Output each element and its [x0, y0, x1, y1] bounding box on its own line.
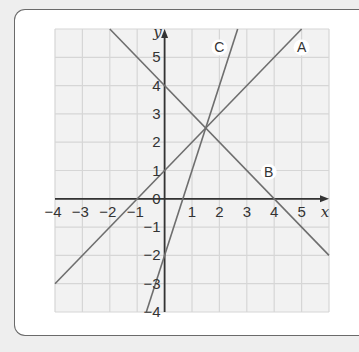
line-label-c: C [214, 39, 224, 55]
x-tick-label: −4 [44, 203, 61, 220]
y-tick-label: 5 [152, 48, 160, 65]
x-tick-label: −3 [72, 203, 89, 220]
x-tick-label: 5 [297, 203, 305, 220]
y-tick-label: 0 [152, 190, 160, 207]
y-tick-label: −1 [143, 218, 160, 235]
x-tick-label: −1 [127, 203, 144, 220]
y-tick-label: 3 [152, 105, 160, 122]
y-tick-label: −4 [143, 303, 160, 320]
line-label-a: A [297, 39, 307, 55]
y-tick-label: −2 [143, 246, 160, 263]
y-tick-label: 1 [152, 162, 160, 179]
x-tick-label: −2 [99, 203, 116, 220]
x-tick-label: 2 [215, 203, 223, 220]
y-tick-label: 2 [152, 133, 160, 150]
line-label-b: B [264, 164, 273, 180]
x-tick-label: 4 [270, 203, 278, 220]
y-tick-label: −3 [143, 275, 160, 292]
y-axis-label: y [152, 23, 162, 41]
y-tick-label: 4 [152, 77, 160, 94]
x-tick-label: 3 [243, 203, 251, 220]
x-tick-label: 1 [188, 203, 196, 220]
x-axis-label: x [321, 203, 330, 221]
